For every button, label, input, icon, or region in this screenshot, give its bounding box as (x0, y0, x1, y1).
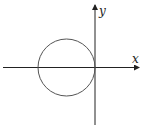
coordinate-diagram: x y (0, 0, 142, 126)
y-axis-label: y (98, 4, 106, 18)
x-axis-label: x (132, 52, 139, 66)
